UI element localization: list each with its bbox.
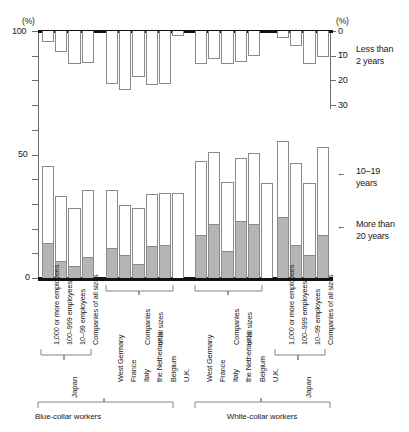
segment-10-19-years <box>146 194 158 246</box>
legend-label-more-than-20-l1: More than <box>356 219 395 230</box>
category-label-jp-blue-1: 100–999 employees <box>65 281 74 345</box>
category-label-jp-white-2: 10–99 employees <box>313 289 322 345</box>
left-tick-90 <box>32 56 38 57</box>
right-axis-line <box>330 31 331 109</box>
category-label-jp-blue-0: 1,000 or more employees <box>52 265 61 345</box>
bracket-blue-collar <box>37 398 175 410</box>
bar-less-than-2-years <box>42 31 54 42</box>
bracket-europe-blue <box>105 284 175 296</box>
bar-tenure-stack <box>277 141 289 278</box>
bar-tenure-stack <box>317 147 329 278</box>
bar-less-than-2-years <box>132 31 144 77</box>
right-axis-unit: (%) <box>336 16 349 26</box>
segment-more-than-20-years <box>221 251 233 278</box>
segment-more-than-20-years <box>68 266 80 278</box>
left-tick-70 <box>32 105 38 106</box>
bar-less-than-2-years <box>277 31 289 38</box>
bar-less-than-2-years <box>55 31 67 52</box>
bar-tenure-stack <box>42 166 54 278</box>
category-label-eu-white-0: West Germany <box>205 335 214 382</box>
segment-10-19-years <box>277 141 289 218</box>
bracket-europe-white <box>194 284 264 296</box>
right-label-20: 20 <box>338 75 348 85</box>
category-label-eu-blue-1: France <box>129 360 138 382</box>
right-tick-30 <box>330 105 336 106</box>
legend-arrow-less-than-2: ← <box>337 46 346 56</box>
left-tick-40 <box>32 179 38 180</box>
category-label-eu-blue-5: U.K. <box>182 368 191 382</box>
category-label-eu-blue-4: Belgium <box>169 356 178 382</box>
segment-more-than-20-years <box>208 224 220 278</box>
category-label-eu-blue-2: Italy <box>142 369 151 382</box>
segment-10-19-years <box>172 193 184 278</box>
legend-arrow-10-19: ← <box>337 168 346 178</box>
bar-tenure-stack <box>208 152 220 278</box>
bar-tenure-stack <box>303 183 315 278</box>
left-axis-line <box>38 31 39 278</box>
segment-more-than-20-years <box>235 221 247 278</box>
left-axis-unit: (%) <box>22 16 35 26</box>
bar-tenure-stack <box>119 205 131 278</box>
bracket-japan-blue <box>40 348 94 362</box>
segment-10-19-years <box>82 190 94 257</box>
segment-10-19-years <box>42 166 54 244</box>
bar-less-than-2-years <box>290 31 302 46</box>
bar-tenure-stack <box>82 190 94 278</box>
bar-less-than-2-years <box>68 31 80 64</box>
segment-more-than-20-years <box>303 255 315 278</box>
segment-10-19-years <box>132 208 144 265</box>
segment-10-19-years <box>119 205 131 254</box>
bar-less-than-2-years <box>159 31 171 84</box>
category-label-eu-white-4: Belgium <box>258 356 267 382</box>
segment-10-19-years <box>106 190 118 248</box>
left-label-100: 100 <box>12 26 26 36</box>
left-tick-80 <box>32 80 38 81</box>
bracket-label-blue-collar: Blue-collar workers <box>35 412 101 421</box>
bar-tenure-stack <box>106 190 118 278</box>
bar-less-than-2-years <box>82 31 94 63</box>
category-label-eu-blue-0: West Germany <box>116 335 125 382</box>
segment-10-19-years <box>208 152 220 224</box>
segment-10-19-years <box>221 182 233 251</box>
bar-tenure-stack <box>195 161 207 278</box>
bracket-white-collar <box>194 398 332 410</box>
segment-10-19-years <box>55 196 67 260</box>
left-tick-60 <box>32 130 38 131</box>
left-label-0: 0 <box>25 272 30 282</box>
bar-less-than-2-years <box>303 31 315 64</box>
bar-less-than-2-years <box>248 31 260 56</box>
bracket-label-japan-blue: Japan <box>70 377 79 398</box>
bar-tenure-stack <box>248 153 260 278</box>
segment-more-than-20-years <box>106 248 118 278</box>
category-label-eu-white-1: France <box>218 360 227 382</box>
legend-label-less-than-2-l2: 2 years <box>356 56 384 67</box>
bar-tenure-stack <box>172 193 184 278</box>
segment-10-19-years <box>68 208 80 266</box>
category-label-eu-white-5: U.K. <box>271 368 280 382</box>
segment-10-19-years <box>235 158 247 221</box>
left-tick-50 <box>32 155 38 156</box>
bar-less-than-2-years <box>146 31 158 85</box>
bar-less-than-2-years <box>235 31 247 62</box>
segment-more-than-20-years <box>317 235 329 278</box>
segment-more-than-20-years <box>248 224 260 278</box>
bar-less-than-2-years <box>172 31 184 36</box>
category-note-eu-blue-l1: Companies <box>143 309 152 345</box>
segment-more-than-20-years <box>132 264 144 278</box>
bar-less-than-2-years <box>119 31 131 90</box>
bar-less-than-2-years <box>317 31 329 57</box>
bar-tenure-stack <box>159 193 171 278</box>
bar-tenure-stack <box>146 194 158 278</box>
segment-more-than-20-years <box>146 246 158 278</box>
category-label-jp-white-1: 100–999 employees <box>300 281 309 345</box>
bar-tenure-stack <box>235 158 247 278</box>
segment-more-than-20-years <box>159 245 171 278</box>
legend-arrow-more-than-20: ← <box>337 221 346 231</box>
bracket-label-white-collar: White-collar workers <box>227 412 297 421</box>
legend-label-10-19-l1: 10–19 <box>356 166 380 177</box>
right-label-30: 30 <box>338 100 348 110</box>
left-tick-10 <box>32 253 38 254</box>
legend-label-more-than-20-l2: 20 years <box>356 231 389 242</box>
bar-tenure-stack <box>221 182 233 278</box>
segment-10-19-years <box>159 193 171 245</box>
